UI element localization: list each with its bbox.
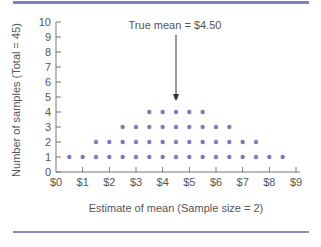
data-dot xyxy=(134,140,138,144)
data-dot xyxy=(227,125,231,129)
data-dot xyxy=(80,155,84,159)
data-dot xyxy=(147,110,151,114)
y-tick-label: 2 xyxy=(45,136,51,148)
data-dot xyxy=(227,140,231,144)
data-dot xyxy=(134,125,138,129)
data-dot xyxy=(200,110,204,114)
data-dot xyxy=(134,155,138,159)
data-dot xyxy=(147,125,151,129)
y-tick-label: 4 xyxy=(45,106,51,118)
x-tick-label: $9 xyxy=(290,176,302,188)
data-dot xyxy=(267,155,271,159)
y-tick-label: 10 xyxy=(39,16,51,28)
x-tick-label: $2 xyxy=(103,176,115,188)
data-dot xyxy=(174,125,178,129)
data-dot xyxy=(160,155,164,159)
dots xyxy=(67,95,285,159)
x-tick-label: $8 xyxy=(263,176,275,188)
data-dot xyxy=(214,125,218,129)
data-dot xyxy=(120,125,124,129)
bottom-rule xyxy=(13,231,309,233)
data-dot xyxy=(160,140,164,144)
data-dot xyxy=(187,110,191,114)
data-dot xyxy=(187,155,191,159)
y-tick-label: 6 xyxy=(45,76,51,88)
y-ticks: 012345678910 xyxy=(39,16,61,178)
data-dot xyxy=(254,155,258,159)
data-dot xyxy=(94,140,98,144)
y-tick-label: 7 xyxy=(45,61,51,73)
data-dot xyxy=(160,125,164,129)
data-dot xyxy=(67,155,71,159)
top-rule xyxy=(13,1,309,4)
x-tick-label: $1 xyxy=(77,176,89,188)
x-tick-label: $4 xyxy=(157,176,169,188)
data-dot xyxy=(147,140,151,144)
data-dot xyxy=(214,155,218,159)
x-tick-label: $6 xyxy=(210,176,222,188)
x-ticks: $0$1$2$3$4$5$6$7$8$9 xyxy=(50,167,302,188)
x-tick-label: $0 xyxy=(50,176,62,188)
y-axis-title: Number of samples (Total = 45) xyxy=(10,23,22,177)
data-dot xyxy=(187,140,191,144)
data-dot xyxy=(240,155,244,159)
annotation-label: True mean = $4.50 xyxy=(129,19,222,31)
data-dot xyxy=(174,140,178,144)
data-dot xyxy=(107,155,111,159)
x-tick-label: $3 xyxy=(130,176,142,188)
data-dot xyxy=(214,140,218,144)
data-dot xyxy=(200,155,204,159)
data-dot xyxy=(187,125,191,129)
data-dot xyxy=(120,155,124,159)
x-axis-title: Estimate of mean (Sample size = 2) xyxy=(89,202,264,214)
y-tick-label: 5 xyxy=(45,91,51,103)
y-tick-label: 1 xyxy=(45,151,51,163)
data-dot xyxy=(120,140,124,144)
data-dot xyxy=(107,140,111,144)
x-tick-label: $5 xyxy=(183,176,195,188)
data-dot xyxy=(200,125,204,129)
y-tick-label: 8 xyxy=(45,46,51,58)
data-dot xyxy=(94,155,98,159)
data-dot xyxy=(227,155,231,159)
y-tick-label: 3 xyxy=(45,121,51,133)
data-dot xyxy=(280,155,284,159)
y-tick-label: 9 xyxy=(45,31,51,43)
data-dot xyxy=(240,140,244,144)
dot-plot-chart: 012345678910 $0$1$2$3$4$5$6$7$8$9 Estima… xyxy=(0,0,321,247)
data-dot xyxy=(147,155,151,159)
x-tick-label: $7 xyxy=(237,176,249,188)
data-dot xyxy=(160,110,164,114)
data-dot xyxy=(254,140,258,144)
data-dot xyxy=(174,155,178,159)
data-dot xyxy=(174,110,178,114)
data-dot xyxy=(200,140,204,144)
